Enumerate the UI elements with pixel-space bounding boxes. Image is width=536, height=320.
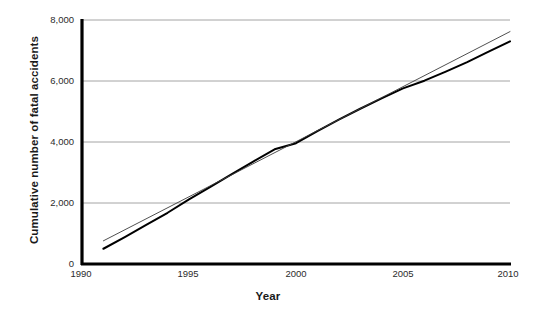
data-series-line	[103, 41, 510, 248]
plot-area	[0, 0, 536, 320]
grid-lines	[82, 20, 510, 203]
data-series-line	[103, 32, 510, 241]
data-series-layer	[103, 32, 510, 249]
chart-figure: Cumulative number of fatal accidents 8,0…	[0, 0, 536, 320]
